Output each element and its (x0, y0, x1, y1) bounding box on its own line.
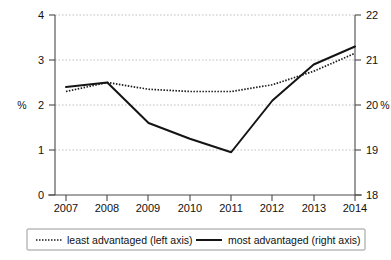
x-tick-label-2009: 2009 (136, 202, 160, 214)
right-axis-ticks (355, 15, 361, 195)
left-tick-label-4: 4 (38, 9, 44, 21)
x-axis-tick-labels: 2007 2008 2009 2010 2011 2012 2013 2014 (54, 202, 367, 214)
series-line-most-advantaged (66, 47, 355, 153)
right-tick-label-18: 18 (366, 189, 378, 201)
left-tick-label-0: 0 (38, 189, 44, 201)
left-tick-label-3: 3 (38, 54, 44, 66)
x-tick-label-2013: 2013 (302, 202, 326, 214)
x-tick-label-2011: 2011 (219, 202, 243, 214)
x-tick-label-2014: 2014 (343, 202, 367, 214)
legend-label-least-advantaged: least advantaged (left axis) (67, 234, 193, 246)
legend: least advantaged (left axis) most advant… (27, 229, 365, 250)
legend-label-most-advantaged: most advantaged (right axis) (228, 234, 360, 246)
right-tick-label-20: 20 (366, 99, 378, 111)
left-tick-label-2: 2 (38, 99, 44, 111)
left-axis-tick-labels: 4 3 2 1 0 (38, 9, 44, 201)
x-axis-ticks (66, 195, 355, 201)
right-axis-tick-labels: 22 21 20 19 18 (366, 9, 378, 201)
right-axis-unit-label: % (380, 99, 389, 111)
right-tick-label-22: 22 (366, 9, 378, 21)
x-tick-label-2008: 2008 (95, 202, 119, 214)
chart-container: 4 3 2 1 0 % 22 21 20 19 18 % (0, 0, 391, 260)
left-axis-ticks (49, 15, 55, 195)
x-tick-label-2010: 2010 (178, 202, 202, 214)
x-tick-label-2007: 2007 (54, 202, 78, 214)
right-tick-label-21: 21 (366, 54, 378, 66)
right-tick-label-19: 19 (366, 144, 378, 156)
line-chart: 4 3 2 1 0 % 22 21 20 19 18 % (0, 0, 391, 260)
left-axis-unit-label: % (17, 99, 26, 111)
left-tick-label-1: 1 (38, 144, 44, 156)
x-tick-label-2012: 2012 (260, 202, 284, 214)
